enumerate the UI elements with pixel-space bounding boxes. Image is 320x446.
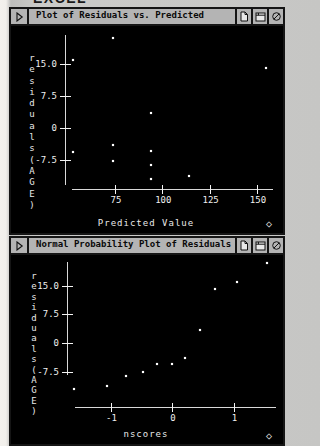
y-tick-label: 7.5 xyxy=(25,309,59,319)
y-tick-label: 0 xyxy=(25,338,59,348)
x-axis-label: nscores xyxy=(66,429,226,439)
new-page-button[interactable] xyxy=(235,9,251,24)
x-tick-label: 150 xyxy=(243,195,273,205)
y-tick-mark xyxy=(62,314,73,315)
page-icon xyxy=(239,11,249,22)
triangle-right-icon xyxy=(14,241,24,251)
page-header: EXCEL xyxy=(33,0,123,5)
data-point xyxy=(188,175,190,177)
y-tick-mark xyxy=(60,128,71,129)
window-menu-button[interactable] xyxy=(11,9,29,24)
new-page-button[interactable] xyxy=(235,238,251,253)
resize-handle[interactable]: ◇ xyxy=(266,431,272,441)
plot-area: residuals(AGE) Predicted Value ◇ 7510012… xyxy=(11,26,283,233)
tile-window-button[interactable] xyxy=(251,9,267,24)
window-menu-button[interactable] xyxy=(11,238,29,253)
y-tick-mark xyxy=(60,96,71,97)
data-point xyxy=(72,151,74,153)
x-tick-mark xyxy=(257,185,258,194)
data-point xyxy=(112,160,114,162)
y-tick-label: 15.0 xyxy=(25,281,59,291)
x-tick-label: 75 xyxy=(101,195,131,205)
y-tick-label: 7.5 xyxy=(23,91,57,101)
x-tick-label: 125 xyxy=(196,195,226,205)
y-tick-mark xyxy=(60,64,71,65)
y-tick-mark xyxy=(62,343,73,344)
data-point xyxy=(112,37,114,39)
resize-handle[interactable]: ◇ xyxy=(266,219,272,229)
data-point xyxy=(106,385,108,387)
window-title: Plot of Residuals vs. Predicted xyxy=(29,9,235,24)
y-tick-mark xyxy=(62,286,73,287)
x-tick-mark xyxy=(234,403,235,412)
y-tick-label: -7.5 xyxy=(25,367,59,377)
window-title: Normal Probability Plot of Residuals xyxy=(29,238,235,253)
data-point xyxy=(156,363,158,365)
data-point xyxy=(171,363,173,365)
x-tick-label: 1 xyxy=(220,413,250,423)
cancel-icon xyxy=(271,240,282,251)
titlebar[interactable]: Normal Probability Plot of Residuals xyxy=(11,238,283,255)
x-tick-label: 100 xyxy=(148,195,178,205)
data-point xyxy=(150,164,152,166)
data-point xyxy=(142,371,144,373)
x-axis-line xyxy=(72,189,273,190)
x-axis-label: Predicted Value xyxy=(66,218,226,228)
y-axis-line xyxy=(65,35,66,185)
window-normal-probability-plot: Normal Probability Plot of Residuals res… xyxy=(9,236,285,446)
data-point xyxy=(184,357,186,359)
y-axis-line xyxy=(67,262,68,375)
y-tick-mark xyxy=(60,160,71,161)
plot-area: residuals(AGE) nscores ◇ -10115.07.50-7.… xyxy=(11,255,283,444)
window-icon xyxy=(255,241,266,251)
cancel-icon xyxy=(271,11,282,22)
data-point xyxy=(150,178,152,180)
close-button[interactable] xyxy=(267,238,283,253)
tile-window-button[interactable] xyxy=(251,238,267,253)
x-tick-mark xyxy=(111,403,112,412)
x-axis-line xyxy=(75,407,276,408)
y-tick-label: -7.5 xyxy=(23,155,57,165)
close-button[interactable] xyxy=(267,9,283,24)
x-tick-mark xyxy=(115,185,116,194)
diamond-icon: ◇ xyxy=(266,218,272,229)
page-icon xyxy=(239,240,249,251)
page-header-text: EXCEL xyxy=(33,0,123,5)
data-point xyxy=(73,388,75,390)
window-icon xyxy=(255,12,266,22)
diamond-icon: ◇ xyxy=(266,430,272,441)
triangle-right-icon xyxy=(14,12,24,22)
y-tick-label: 0 xyxy=(23,123,57,133)
x-tick-mark xyxy=(162,185,163,194)
y-tick-label: 15.0 xyxy=(23,59,57,69)
x-tick-mark xyxy=(172,403,173,412)
data-point xyxy=(150,112,152,114)
data-point xyxy=(214,288,216,290)
x-tick-label: 0 xyxy=(158,413,188,423)
x-tick-mark xyxy=(210,185,211,194)
data-point xyxy=(266,262,268,264)
titlebar[interactable]: Plot of Residuals vs. Predicted xyxy=(11,9,283,26)
data-point xyxy=(265,67,267,69)
data-point xyxy=(112,144,114,146)
data-point xyxy=(125,375,127,377)
data-point xyxy=(199,329,201,331)
y-tick-mark xyxy=(62,372,73,373)
window-residuals-vs-predicted: Plot of Residuals vs. Predicted residual… xyxy=(9,7,285,235)
data-point xyxy=(72,59,74,61)
x-tick-label: -1 xyxy=(97,413,127,423)
data-point xyxy=(236,281,238,283)
data-point xyxy=(150,150,152,152)
